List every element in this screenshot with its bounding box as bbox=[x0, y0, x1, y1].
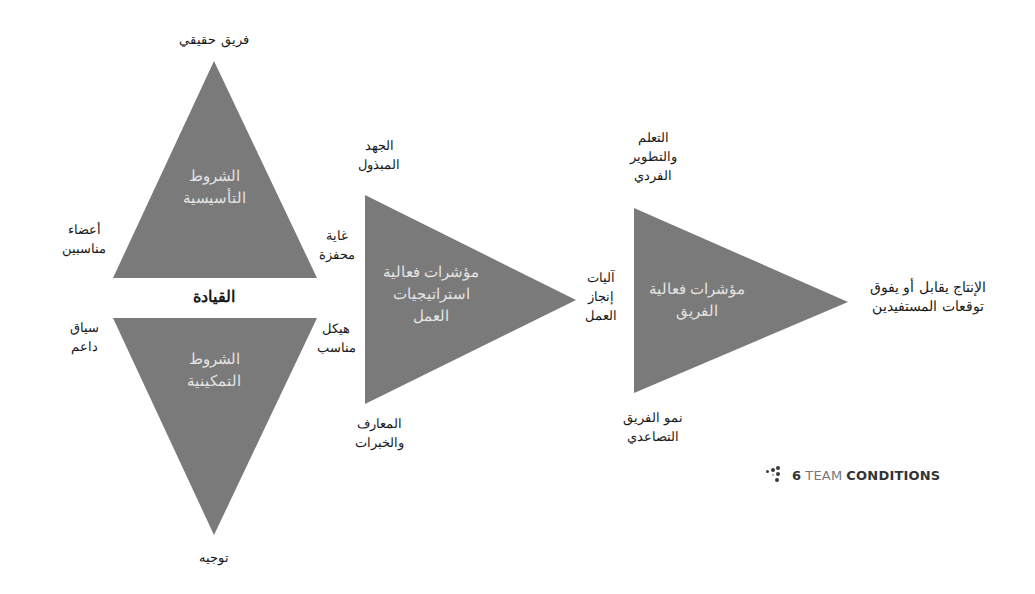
right-people-line2: مناسبين bbox=[62, 239, 106, 258]
compelling-direction-line1: غاية bbox=[319, 226, 355, 245]
task-processes-line3: العمل bbox=[585, 306, 617, 325]
outcome-line2: توقعات المستفيدين bbox=[870, 297, 986, 316]
enabling-conditions-title: الشروط التمكينية bbox=[187, 348, 241, 392]
outcome-label: الإنتاج يقابل أو يفوق توقعات المستفيدين bbox=[870, 278, 986, 316]
individual-learning-line2: والتطوير bbox=[630, 147, 677, 166]
outcome-line1: الإنتاج يقابل أو يفوق bbox=[870, 278, 986, 297]
foundational-title-line2: التأسيسية bbox=[183, 187, 246, 209]
work-strategies-line1: مؤشرات فعالية bbox=[383, 261, 480, 283]
enabling-title-line1: الشروط bbox=[187, 348, 241, 370]
foundational-conditions-title: الشروط التأسيسية bbox=[183, 165, 246, 209]
task-processes-line1: آليات bbox=[585, 268, 617, 287]
effort-line2: المبذول bbox=[358, 155, 400, 174]
team-growth-line1: نمو الفريق bbox=[623, 408, 683, 427]
brand-word-conditions: CONDITIONS bbox=[846, 468, 940, 483]
team-effectiveness-line1: مؤشرات فعالية bbox=[649, 278, 746, 300]
team-growth-label: نمو الفريق التصاعدي bbox=[623, 408, 683, 446]
enabling-title-line2: التمكينية bbox=[187, 370, 241, 392]
knowledge-skills-label: المعارف والخبرات bbox=[355, 414, 404, 452]
supportive-context-line1: سياق bbox=[70, 318, 99, 337]
task-processes-line2: إنجاز bbox=[585, 287, 617, 306]
team-effectiveness-title: مؤشرات فعالية الفريق bbox=[649, 278, 746, 322]
dots-logo-icon bbox=[766, 466, 788, 484]
brand-number: 6 bbox=[792, 468, 801, 483]
leadership-text: القيادة bbox=[193, 287, 235, 306]
individual-learning-line3: الفردي bbox=[630, 166, 677, 185]
coaching-text: توجيه bbox=[199, 548, 229, 567]
sound-structure-line2: مناسب bbox=[317, 338, 356, 357]
work-strategies-line3: العمل bbox=[383, 305, 480, 327]
effort-label: الجهد المبذول bbox=[358, 136, 400, 174]
individual-learning-line1: التعلم bbox=[630, 128, 677, 147]
supportive-context-line2: داعم bbox=[70, 337, 99, 356]
knowledge-line2: والخبرات bbox=[355, 433, 404, 452]
team-growth-line2: التصاعدي bbox=[623, 427, 683, 446]
task-processes-label: آليات إنجاز العمل bbox=[585, 268, 617, 325]
compelling-direction-label: غاية محفزة bbox=[319, 226, 355, 264]
team-effectiveness-line2: الفريق bbox=[649, 300, 746, 322]
knowledge-line1: المعارف bbox=[355, 414, 404, 433]
sound-structure-label: هيكل مناسب bbox=[317, 319, 356, 357]
work-strategies-title: مؤشرات فعالية استراتيجيات العمل bbox=[383, 261, 480, 327]
right-people-line1: أعضاء bbox=[62, 220, 106, 239]
individual-learning-label: التعلم والتطوير الفردي bbox=[630, 128, 677, 185]
supportive-context-label: سياق داعم bbox=[70, 318, 99, 356]
leadership-label: القيادة bbox=[193, 287, 235, 306]
right-people-label: أعضاء مناسبين bbox=[62, 220, 106, 258]
six-team-conditions-brand: 6 TEAM CONDITIONS bbox=[766, 466, 940, 484]
brand-word-team: TEAM bbox=[805, 468, 842, 483]
work-strategies-line2: استراتيجيات bbox=[383, 283, 480, 305]
real-team-text: فريق حقيقي bbox=[179, 30, 248, 49]
real-team-label: فريق حقيقي bbox=[179, 30, 248, 49]
coaching-label: توجيه bbox=[199, 548, 229, 567]
foundational-title-line1: الشروط bbox=[183, 165, 246, 187]
effort-line1: الجهد bbox=[358, 136, 400, 155]
compelling-direction-line2: محفزة bbox=[319, 245, 355, 264]
sound-structure-line1: هيكل bbox=[317, 319, 356, 338]
